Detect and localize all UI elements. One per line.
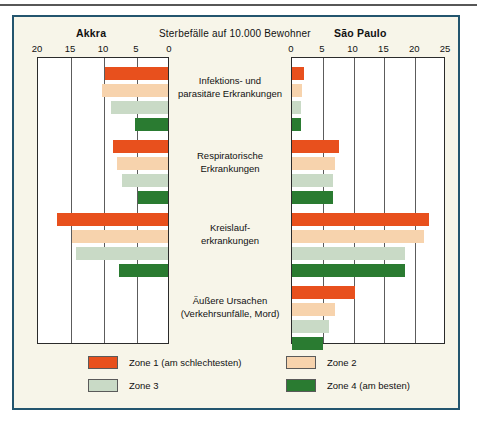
left-panel-title: Akkra <box>76 27 106 39</box>
bar <box>292 286 355 299</box>
gridline <box>415 58 416 343</box>
left-plot-area <box>37 57 169 344</box>
bar <box>113 140 168 153</box>
category-label-line: parasitäre Erkrankungen <box>171 88 289 101</box>
gridline <box>354 58 355 343</box>
bar <box>292 101 301 114</box>
bar <box>72 230 168 243</box>
bar <box>292 84 302 97</box>
legend-item: Zone 3 <box>88 379 159 392</box>
axis-tick-label: 10 <box>98 43 109 54</box>
category-label-line: Erkrankungen <box>171 163 289 176</box>
gridline <box>71 58 72 343</box>
chart-figure: Akkra Sterbefälle auf 10.000 Bewohner Sã… <box>0 0 477 426</box>
bar <box>122 174 168 187</box>
legend-item: Zone 2 <box>286 356 357 369</box>
legend-label: Zone 1 (am schlechtesten) <box>129 357 241 368</box>
bar <box>292 157 335 170</box>
bar <box>135 118 168 131</box>
category-label-line: Äußere Ursachen <box>171 295 289 308</box>
legend-item: Zone 4 (am besten) <box>286 379 410 392</box>
category-label-line: (Verkehrsunfälle, Mord) <box>171 308 289 321</box>
legend-label: Zone 3 <box>129 380 159 391</box>
bar <box>292 264 405 277</box>
category-label-line: Infektions- und <box>171 75 289 88</box>
axis-tick-label: 10 <box>347 43 358 54</box>
bar <box>292 213 429 226</box>
category-label-line: Kreislauf- <box>171 222 289 235</box>
gridline <box>104 58 105 343</box>
category-label-line: erkrankungen <box>171 235 289 248</box>
bar <box>105 67 168 80</box>
right-panel-title: São Paulo <box>334 27 387 39</box>
bar <box>138 191 168 204</box>
axis-tick-label: 15 <box>65 43 76 54</box>
legend-label: Zone 4 (am besten) <box>327 380 410 391</box>
chart-panel: Akkra Sterbefälle auf 10.000 Bewohner Sã… <box>12 15 460 410</box>
legend-swatch <box>286 356 316 369</box>
bar <box>292 140 339 153</box>
bar <box>119 264 169 277</box>
legend-swatch <box>286 379 316 392</box>
axis-tick-label: 0 <box>288 43 293 54</box>
bar <box>57 213 168 226</box>
legend-swatch <box>88 356 118 369</box>
bar <box>102 84 168 97</box>
bar <box>292 320 329 333</box>
category-label: Kreislauf-erkrankungen <box>171 222 289 247</box>
bar <box>292 174 333 187</box>
legend-label: Zone 2 <box>327 357 357 368</box>
right-plot-area <box>291 57 445 344</box>
category-label: RespiratorischeErkrankungen <box>171 150 289 175</box>
bar <box>292 191 333 204</box>
axis-tick-label: 20 <box>409 43 420 54</box>
axis-tick-label: 15 <box>378 43 389 54</box>
bar <box>117 157 168 170</box>
bar <box>292 337 323 350</box>
axis-tick-label: 20 <box>32 43 43 54</box>
axis-tick-label: 5 <box>319 43 324 54</box>
chart-legend: Zone 1 (am schlechtesten)Zone 2Zone 3Zon… <box>28 354 446 400</box>
top-rule <box>0 4 477 6</box>
category-label: Äußere Ursachen(Verkehrsunfälle, Mord) <box>171 295 289 320</box>
category-label-line: Respiratorische <box>171 150 289 163</box>
bar <box>292 230 424 243</box>
bar <box>292 67 304 80</box>
bar <box>76 247 168 260</box>
chart-center-title: Sterbefälle auf 10.000 Bewohner <box>159 28 311 39</box>
legend-swatch <box>88 379 118 392</box>
category-label: Infektions- undparasitäre Erkrankungen <box>171 75 289 100</box>
legend-item: Zone 1 (am schlechtesten) <box>88 356 241 369</box>
axis-tick-label: 5 <box>133 43 138 54</box>
bar <box>292 247 405 260</box>
axis-tick-label: 25 <box>440 43 451 54</box>
bar <box>292 303 335 316</box>
bar <box>292 118 301 131</box>
bar <box>111 101 168 114</box>
gridline <box>384 58 385 343</box>
axis-tick-label: 0 <box>166 43 171 54</box>
